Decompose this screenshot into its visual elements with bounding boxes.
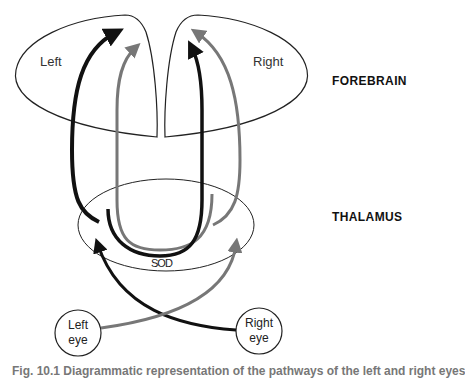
figure-caption: Fig. 10.1 Diagrammatic representation of… bbox=[12, 364, 465, 378]
gray-pathway-to-left-hemisphere bbox=[117, 48, 212, 250]
forebrain-label: FOREBRAIN bbox=[332, 74, 407, 88]
sod-label: SOD bbox=[151, 257, 172, 269]
right-hemisphere-outline bbox=[165, 15, 308, 137]
right-eye-label-line1: Right bbox=[236, 316, 282, 331]
left-eye-label-line1: Left bbox=[55, 318, 101, 333]
right-eye-label: Right eye bbox=[236, 316, 282, 346]
left-hemisphere-outline bbox=[16, 15, 158, 137]
thalamus-label: THALAMUS bbox=[332, 210, 403, 224]
left-eye-label-line2: eye bbox=[55, 333, 101, 348]
left-hemisphere-label: Left bbox=[40, 54, 62, 69]
right-hemisphere-label: Right bbox=[253, 54, 283, 69]
left-eye-label: Left eye bbox=[55, 318, 101, 348]
right-eye-label-line2: eye bbox=[236, 331, 282, 346]
